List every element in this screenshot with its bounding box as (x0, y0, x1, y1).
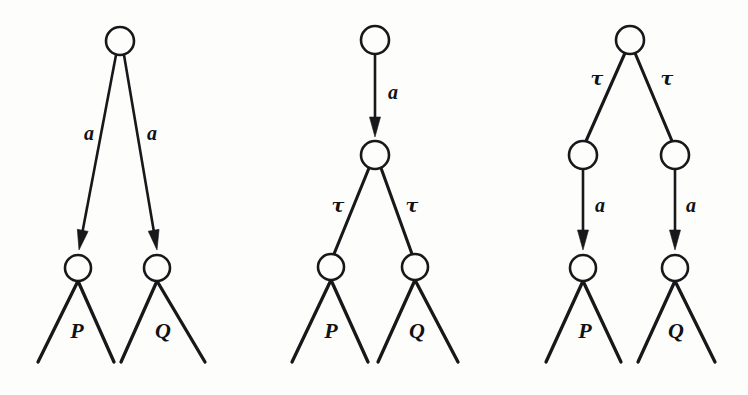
mid-fan-p-label: P (323, 318, 338, 343)
right-fan-p-label: P (577, 318, 592, 343)
right-edge-tau1-label: τ (591, 67, 604, 89)
mid-child-p (318, 254, 344, 280)
left-edge-a1-arrowhead-icon (77, 229, 88, 250)
diagram-middle: aττPQ (292, 26, 458, 362)
left-fan-p-label: P (69, 318, 84, 343)
left-edge-a2-line (124, 55, 154, 234)
figure-canvas: aaPQaττPQττaaPQ (0, 0, 748, 395)
left-fan-q-label: Q (155, 318, 171, 343)
left-root (106, 27, 134, 55)
diagram-left: aaPQ (38, 27, 205, 362)
right-edge-a1-label: a (595, 194, 605, 216)
right-edge-tau2-label: τ (661, 67, 674, 89)
mid-edge-tau2-label: τ (406, 194, 419, 216)
mid-edge-a-arrowhead-icon (370, 117, 381, 137)
left-edge-a2-label: a (147, 122, 157, 144)
right-child-q (662, 255, 688, 281)
diagram-right: ττaaPQ (546, 26, 715, 362)
process-tree-figure: aaPQaττPQττaaPQ (0, 0, 748, 395)
mid-child-q (402, 254, 428, 280)
right-edge-a2-label: a (686, 194, 696, 216)
left-child-q (144, 255, 170, 281)
left-child-p (65, 255, 91, 281)
left-fan-q-left-leg (121, 281, 157, 362)
right-inner-q (661, 141, 689, 169)
right-fan-q-label: Q (668, 318, 684, 343)
mid-inner (361, 141, 389, 169)
left-edge-a2-arrowhead-icon (148, 229, 159, 250)
right-root (616, 26, 644, 54)
right-edge-a2-arrowhead-icon (670, 230, 681, 250)
right-edge-a1-arrowhead-icon (578, 230, 589, 250)
left-edge-a1-label: a (84, 122, 94, 144)
mid-edge-a-label: a (388, 81, 398, 103)
mid-fan-q-label: Q (409, 318, 425, 343)
mid-edge-tau1-label: τ (332, 194, 345, 216)
left-edge-a1-line (82, 55, 116, 234)
diagrams-group: aaPQaττPQττaaPQ (38, 26, 715, 362)
right-inner-p (569, 141, 597, 169)
mid-root (361, 26, 389, 54)
right-child-p (570, 255, 596, 281)
